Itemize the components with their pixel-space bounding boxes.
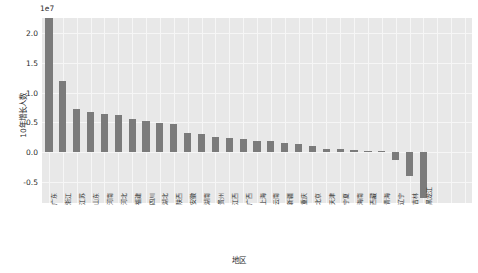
x-tick-label: 福建 — [135, 193, 141, 205]
x-tick-label: 四川 — [149, 193, 155, 205]
x-tick-label: 西藏 — [370, 193, 376, 205]
x-tick-label: 新疆 — [287, 193, 293, 205]
x-tick-label: 湖北 — [162, 193, 168, 205]
x-tick-label: 天津 — [329, 193, 335, 205]
x-tick-label: 江西 — [232, 193, 238, 205]
x-tick-label: 陕西 — [176, 193, 182, 205]
x-tick-label: 黑龙江 — [426, 187, 432, 205]
x-tick-label: 河北 — [121, 193, 127, 205]
x-tick-label: 广西 — [246, 193, 252, 205]
x-tick-label: 广东 — [51, 193, 57, 205]
x-axis-title: 地区 — [0, 254, 478, 265]
x-tick-label: 重庆 — [301, 193, 307, 205]
x-tick-label: 贵州 — [218, 193, 224, 205]
x-tick-label: 江苏 — [79, 193, 85, 205]
population-growth-bar-chart: 1e7 -0.50.00.51.01.52.0 10年增长人数 广东浙江江苏山东… — [0, 0, 478, 273]
x-tick-label: 青海 — [384, 193, 390, 205]
x-tick-label: 湖南 — [204, 193, 210, 205]
x-tick-label: 海南 — [357, 193, 363, 205]
x-tick-label: 安徽 — [190, 193, 196, 205]
x-tick-label: 上海 — [260, 193, 266, 205]
x-tick-label: 河南 — [107, 193, 113, 205]
y-axis-title: 10年增长人数 — [17, 56, 28, 176]
x-tick-label: 浙江 — [65, 193, 71, 205]
x-tick-label: 云南 — [273, 193, 279, 205]
x-tick-label: 北京 — [315, 193, 321, 205]
x-axis-ticks: 广东浙江江苏山东河南河北福建四川湖北陕西安徽湖南贵州江西广西上海云南新疆重庆北京… — [42, 205, 472, 251]
y-tick-label: 2.0 — [6, 28, 38, 37]
x-tick-label: 辽宁 — [398, 193, 404, 205]
y-tick-label: -0.5 — [6, 178, 38, 187]
x-tick-label: 吉林 — [412, 193, 418, 205]
x-tick-label: 山东 — [93, 193, 99, 205]
x-tick-label: 宁夏 — [343, 193, 349, 205]
